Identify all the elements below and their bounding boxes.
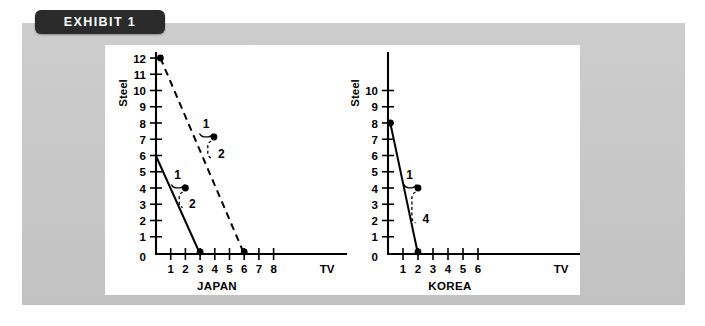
korea-ytick-5: 5 <box>372 166 379 178</box>
japan-zero-label: 0 <box>140 251 146 263</box>
japan-ytick-6: 6 <box>140 150 146 162</box>
japan-xtick-4: 4 <box>212 263 219 275</box>
korea-rise-brace <box>412 192 416 223</box>
japan-solid-rise-brace <box>179 192 182 208</box>
japan-y-axis-label: Steel <box>117 79 129 107</box>
korea-ytick-8: 8 <box>372 118 379 130</box>
japan-point-dashed-intercept <box>157 55 164 62</box>
korea-x-axis-label: TV <box>554 263 569 275</box>
korea-ytick-1: 1 <box>372 231 379 243</box>
korea-point-yintercept <box>387 120 394 127</box>
japan-ytick-8: 8 <box>140 118 147 130</box>
korea-point-xintercept <box>415 249 422 256</box>
korea-ytick-10: 10 <box>365 85 378 97</box>
japan-ytick-7: 7 <box>140 134 146 146</box>
korea-ytick-2: 2 <box>372 215 378 227</box>
japan-solid-rise-label: 2 <box>189 197 196 211</box>
korea-xtick-1: 1 <box>400 263 407 275</box>
charts-plate: 12 11 10 9 8 7 6 5 4 3 2 1 0 <box>105 45 580 295</box>
japan-ytick-4: 4 <box>140 183 147 195</box>
korea-ytick-9: 9 <box>372 101 378 113</box>
japan-xtick-2: 2 <box>182 263 188 275</box>
japan-ytick-11: 11 <box>134 69 147 81</box>
japan-x-axis-label: TV <box>320 263 335 275</box>
korea-xtick-6: 6 <box>475 263 481 275</box>
chart-korea: 10 9 8 7 6 5 4 3 2 1 0 <box>349 53 579 292</box>
japan-xtick-8: 8 <box>270 263 277 275</box>
japan-ytick-3: 3 <box>140 199 146 211</box>
japan-ytick-12: 12 <box>133 53 146 65</box>
japan-point-dashed-xintercept <box>241 249 248 256</box>
japan-chart-title: JAPAN <box>197 280 237 292</box>
japan-solid-run-brace <box>171 185 184 188</box>
korea-chart-title: KOREA <box>428 280 472 292</box>
japan-solid-run-label: 1 <box>174 168 181 182</box>
japan-ppf-dashed <box>160 58 244 254</box>
japan-ytick-5: 5 <box>140 166 147 178</box>
chart-japan: 12 11 10 9 8 7 6 5 4 3 2 1 0 <box>117 53 346 293</box>
japan-point-solid-mid <box>182 185 189 192</box>
korea-run-brace <box>404 185 416 188</box>
japan-xtick-6: 6 <box>241 263 247 275</box>
exhibit-root: EXHIBIT 1 <box>0 0 705 326</box>
japan-dashed-run-label: 1 <box>203 117 210 131</box>
korea-ppf-solid <box>390 123 418 254</box>
korea-xtick-5: 5 <box>460 263 467 275</box>
korea-y-axis-label: Steel <box>349 79 361 107</box>
korea-xtick-4: 4 <box>445 263 452 275</box>
japan-point-solid-intercept <box>197 249 204 256</box>
korea-xtick-3: 3 <box>430 263 436 275</box>
korea-ytick-7: 7 <box>372 134 378 146</box>
korea-rise-label: 4 <box>423 212 430 226</box>
korea-xtick-2: 2 <box>415 263 421 275</box>
japan-point-dashed-mid <box>211 134 218 141</box>
japan-ytick-2: 2 <box>140 215 146 227</box>
japan-ytick-1: 1 <box>140 231 147 243</box>
japan-ytick-9: 9 <box>140 101 146 113</box>
korea-ytick-6: 6 <box>372 150 378 162</box>
japan-dashed-rise-label: 2 <box>218 147 225 161</box>
japan-xtick-7: 7 <box>256 263 262 275</box>
japan-xtick-5: 5 <box>226 263 233 275</box>
japan-xtick-3: 3 <box>197 263 203 275</box>
charts-svg: 12 11 10 9 8 7 6 5 4 3 2 1 0 <box>105 45 580 295</box>
japan-xtick-1: 1 <box>167 263 174 275</box>
japan-dashed-rise-brace <box>208 141 211 158</box>
korea-zero-label: 0 <box>372 251 378 263</box>
exhibit-tab: EXHIBIT 1 <box>35 10 165 34</box>
korea-run-label: 1 <box>406 168 413 182</box>
exhibit-tab-label: EXHIBIT 1 <box>64 15 136 29</box>
korea-ytick-3: 3 <box>372 199 378 211</box>
japan-ytick-10: 10 <box>133 85 146 97</box>
korea-ytick-4: 4 <box>372 183 379 195</box>
japan-dashed-run-brace <box>200 134 214 137</box>
